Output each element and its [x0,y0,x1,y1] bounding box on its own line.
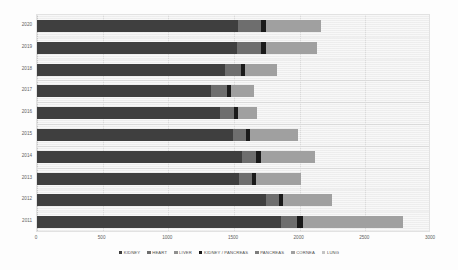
legend-item[interactable]: LUNG [322,250,339,255]
x-axis-tick-label: 3000 [415,235,445,240]
legend-swatch-icon [147,251,150,254]
bar-segment[interactable] [37,173,239,185]
bar-segment[interactable] [239,173,251,185]
bar-row[interactable] [37,20,321,32]
legend-label: KIDNEY / PANCREAS [204,250,248,255]
bar-row[interactable] [37,194,332,206]
y-axis-tick-label: 2011 [8,218,32,223]
x-axis-tick-label: 500 [87,235,117,240]
bar-segment[interactable] [37,20,238,32]
y-axis-tick-label: 2020 [8,22,32,27]
bar-segment[interactable] [233,129,247,141]
y-axis-tick-label: 2014 [8,153,32,158]
bar-segment[interactable] [283,194,332,206]
stacked-bar-chart: 2020201920182017201620152014201320122011… [0,0,458,270]
y-axis-tick-label: 2012 [8,196,32,201]
bar-segment[interactable] [225,64,240,76]
bar-segment[interactable] [303,216,403,228]
y-axis-tick-label: 2016 [8,109,32,114]
bar-segment[interactable] [37,151,242,163]
bar-segment[interactable] [266,20,321,32]
legend-swatch-icon [174,251,177,254]
bar-segment[interactable] [37,129,233,141]
legend-item[interactable]: KIDNEY / PANCREAS [199,250,248,255]
legend-item[interactable]: HEART [147,250,167,255]
bar-segment[interactable] [261,151,316,163]
bar-segment[interactable] [220,107,234,119]
bar-segment[interactable] [266,42,317,54]
bar-segment[interactable] [211,85,227,97]
legend-item[interactable]: CORNEA [291,250,315,255]
bar-segment[interactable] [237,42,261,54]
bar-segment[interactable] [250,129,297,141]
x-axis-tick-label: 1500 [218,235,248,240]
legend-item[interactable]: KIDNEY [119,250,140,255]
bar-segment[interactable] [37,194,266,206]
legend-swatch-icon [199,251,202,254]
chart-legend: KIDNEYHEARTLIVERKIDNEY / PANCREASPANCREA… [0,250,458,255]
x-axis-tick-label: 0 [21,235,51,240]
bar-segment[interactable] [37,85,211,97]
bar-segment[interactable] [37,107,220,119]
legend-label: LIVER [179,250,192,255]
legend-label: HEART [152,250,167,255]
legend-swatch-icon [322,251,325,254]
y-axis-tick-label: 2018 [8,66,32,71]
legend-label: PANCREAS [260,250,284,255]
x-axis-tick-label: 2500 [349,235,379,240]
bar-segment[interactable] [281,216,297,228]
bar-segment[interactable] [245,64,277,76]
bar-segment[interactable] [238,107,257,119]
bar-segment[interactable] [37,42,237,54]
bar-segment[interactable] [37,64,225,76]
legend-swatch-icon [291,251,294,254]
y-axis-tick-label: 2017 [8,87,32,92]
bar-row[interactable] [37,64,277,76]
bar-row[interactable] [37,129,298,141]
bar-segment[interactable] [238,20,261,32]
bar-segment[interactable] [256,173,301,185]
legend-item[interactable]: LIVER [174,250,192,255]
bar-segment[interactable] [266,194,278,206]
bar-segment[interactable] [37,216,281,228]
bar-row[interactable] [37,42,317,54]
y-axis-tick-label: 2015 [8,131,32,136]
bar-segment[interactable] [231,85,253,97]
bar-row[interactable] [37,151,315,163]
bar-row[interactable] [37,173,301,185]
bar-row[interactable] [37,85,254,97]
bar-row[interactable] [37,107,257,119]
legend-swatch-icon [119,251,122,254]
legend-swatch-icon [255,251,258,254]
legend-item[interactable]: PANCREAS [255,250,284,255]
x-axis-tick-label: 1000 [152,235,182,240]
legend-label: LUNG [327,250,339,255]
bar-segment[interactable] [242,151,256,163]
y-axis-tick-label: 2013 [8,175,32,180]
y-axis-tick-label: 2019 [8,44,32,49]
legend-label: KIDNEY [124,250,141,255]
legend-label: CORNEA [296,250,315,255]
x-axis-tick-label: 2000 [284,235,314,240]
bar-row[interactable] [37,216,403,228]
